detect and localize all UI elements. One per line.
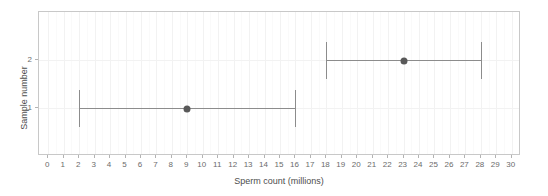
x-tick-label: 21 — [367, 160, 376, 169]
gridline-x-minor — [442, 12, 443, 154]
x-tick-mark — [449, 155, 450, 158]
gridline-x-minor — [489, 12, 490, 154]
errorbar-cap — [326, 42, 327, 79]
x-tick-label: 28 — [475, 160, 484, 169]
gridline-x — [187, 12, 188, 154]
gridline-x-minor — [195, 12, 196, 154]
x-tick-mark — [186, 155, 187, 158]
gridline-x — [450, 12, 451, 154]
x-tick-label: 9 — [184, 160, 188, 169]
x-tick-label: 22 — [383, 160, 392, 169]
data-point — [184, 105, 191, 112]
gridline-x-minor — [380, 12, 381, 154]
gridline-x — [512, 12, 513, 154]
x-tick-mark — [310, 155, 311, 158]
x-tick-mark — [325, 155, 326, 158]
x-tick-label: 2 — [76, 160, 80, 169]
gridline-x — [234, 12, 235, 154]
y-tick-mark — [35, 107, 38, 108]
gridline-x-minor — [319, 12, 320, 154]
gridline-x-minor — [411, 12, 412, 154]
x-tick-label: 20 — [352, 160, 361, 169]
x-tick-label: 5 — [122, 160, 126, 169]
gridline-x-minor — [350, 12, 351, 154]
x-tick-label: 6 — [138, 160, 142, 169]
gridline-x — [465, 12, 466, 154]
x-tick-label: 17 — [305, 160, 314, 169]
x-tick-label: 11 — [213, 160, 221, 169]
x-tick-label: 4 — [107, 160, 111, 169]
x-tick-label: 25 — [429, 160, 438, 169]
x-tick-mark — [264, 155, 265, 158]
x-tick-label: 30 — [506, 160, 515, 169]
x-tick-mark — [125, 155, 126, 158]
errorbar-cap — [481, 42, 482, 79]
gridline-x — [203, 12, 204, 154]
gridline-x — [373, 12, 374, 154]
x-tick-label: 3 — [91, 160, 95, 169]
x-tick-mark — [433, 155, 434, 158]
x-tick-mark — [511, 155, 512, 158]
gridline-x-minor — [241, 12, 242, 154]
x-tick-label: 8 — [169, 160, 173, 169]
x-tick-mark — [341, 155, 342, 158]
error-bar-chart: Sample number Sperm count (millions) 012… — [0, 0, 548, 196]
gridline-x-minor — [180, 12, 181, 154]
x-tick-mark — [94, 155, 95, 158]
gridline-x-minor — [334, 12, 335, 154]
x-tick-label: 29 — [491, 160, 500, 169]
gridline-x-minor — [396, 12, 397, 154]
x-tick-mark — [78, 155, 79, 158]
x-tick-mark — [217, 155, 218, 158]
gridline-x-minor — [226, 12, 227, 154]
x-tick-mark — [171, 155, 172, 158]
x-tick-label: 15 — [275, 160, 284, 169]
x-tick-label: 27 — [460, 160, 469, 169]
x-tick-label: 1 — [60, 160, 64, 169]
gridline-x-minor — [288, 12, 289, 154]
x-tick-mark — [202, 155, 203, 158]
gridline-x-minor — [303, 12, 304, 154]
x-tick-mark — [233, 155, 234, 158]
gridline-x — [388, 12, 389, 154]
gridline-x — [110, 12, 111, 154]
gridline-x — [404, 12, 405, 154]
x-tick-mark — [294, 155, 295, 158]
gridline-x-minor — [458, 12, 459, 154]
gridline-x — [295, 12, 296, 154]
gridline-x — [156, 12, 157, 154]
x-tick-mark — [403, 155, 404, 158]
y-tick-mark — [35, 59, 38, 60]
gridline-x — [434, 12, 435, 154]
gridline-x-minor — [257, 12, 258, 154]
gridline-x — [79, 12, 80, 154]
x-tick-label: 7 — [153, 160, 157, 169]
gridline-x-minor — [102, 12, 103, 154]
errorbar-cap — [295, 90, 296, 127]
gridline-x-minor — [56, 12, 57, 154]
x-tick-mark — [155, 155, 156, 158]
gridline-x-minor — [87, 12, 88, 154]
y-axis-title: Sample number — [16, 0, 32, 196]
gridline-x-minor — [210, 12, 211, 154]
gridline-x — [218, 12, 219, 154]
gridline-x — [419, 12, 420, 154]
x-tick-mark — [47, 155, 48, 158]
x-tick-mark — [387, 155, 388, 158]
gridline-x-minor — [427, 12, 428, 154]
gridline-x — [481, 12, 482, 154]
gridline-x-minor — [504, 12, 505, 154]
plot-panel — [38, 11, 520, 155]
gridline-x-minor — [164, 12, 165, 154]
data-point — [400, 57, 407, 64]
gridline-x — [496, 12, 497, 154]
x-tick-label: 26 — [444, 160, 453, 169]
x-tick-mark — [495, 155, 496, 158]
x-tick-label: 0 — [45, 160, 49, 169]
gridline-x-minor — [71, 12, 72, 154]
x-tick-mark — [140, 155, 141, 158]
gridline-x-minor — [118, 12, 119, 154]
gridline-x — [265, 12, 266, 154]
x-tick-label: 10 — [197, 160, 206, 169]
x-tick-label: 23 — [398, 160, 407, 169]
